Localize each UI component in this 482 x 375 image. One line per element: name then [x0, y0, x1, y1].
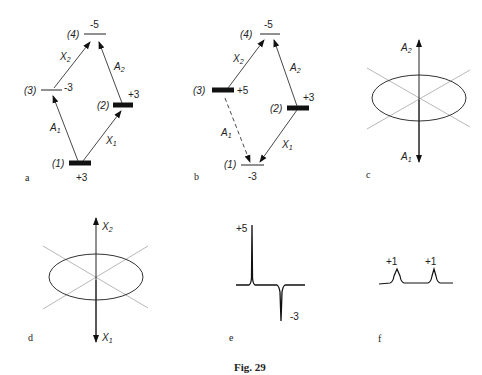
level-3-value: -3: [64, 82, 73, 93]
axis-label-top: A2: [400, 42, 412, 54]
level-3-id: (3): [193, 85, 205, 96]
peak-1-label: +1: [386, 256, 398, 267]
axis-label-bottom: X1: [101, 332, 113, 344]
panel-f: +1 +1 f: [378, 256, 453, 344]
peak-down-label: -3: [290, 311, 299, 322]
level-3-id: (3): [24, 85, 36, 96]
level-3-value: +5: [237, 85, 249, 96]
axis-label-top: X2: [101, 221, 113, 233]
peak-up-label: +5: [236, 223, 248, 234]
level-4-id: (4): [240, 29, 252, 40]
label-X2: X2: [59, 51, 71, 63]
level-2-value: +3: [128, 89, 140, 100]
axis-label-bottom: A1: [400, 151, 412, 163]
spectrum-trace: [379, 269, 453, 284]
level-2-value: +3: [303, 92, 315, 103]
label-A1: A1: [49, 122, 61, 134]
arrow-A2: [274, 40, 297, 106]
level-2-id: (2): [270, 103, 282, 114]
level-1-id: (1): [52, 158, 64, 169]
panel-b: (4) -5 (3) +5 (2) +3 (1) -3 A1 X1 X2 A2 …: [193, 19, 315, 182]
level-1-id: (1): [224, 159, 236, 170]
arrow-X2: [228, 40, 264, 88]
panel-d: X2 X1 d: [28, 218, 148, 344]
arrow-X1: [260, 110, 297, 162]
label-A2: A2: [289, 62, 301, 74]
level-4-value: -5: [264, 19, 273, 30]
label-X1: X1: [105, 135, 117, 147]
label-X1: X1: [281, 139, 293, 151]
arrow-X1: [83, 111, 121, 161]
panel-c: A2 A1 c: [366, 40, 470, 180]
arrow-A2: [99, 42, 122, 103]
panel-a: (4) -5 (3) -3 (2) +3 (1) +3 A1 X1 X2 A2 …: [24, 19, 140, 183]
label-A2: A2: [113, 61, 125, 73]
level-4-value: -5: [90, 19, 99, 30]
peak-2-label: +1: [425, 256, 437, 267]
spectrum-trace: [236, 225, 305, 321]
panel-label-b: b: [194, 171, 199, 182]
panel-label-f: f: [378, 333, 382, 344]
label-X2: X2: [232, 53, 244, 65]
level-1-value: +3: [76, 172, 88, 183]
level-4-id: (4): [67, 29, 79, 40]
level-1-value: -3: [248, 171, 257, 182]
level-2-id: (2): [97, 100, 109, 111]
panel-label-e: e: [229, 332, 234, 343]
panel-e: +5 -3 e: [229, 223, 305, 343]
figure-caption: Fig. 29: [234, 361, 266, 373]
label-A1: A1: [220, 127, 232, 139]
panel-label-a: a: [25, 172, 30, 183]
panel-label-c: c: [366, 169, 371, 180]
figure-29: (4) -5 (3) -3 (2) +3 (1) +3 A1 X1 X2 A2 …: [0, 0, 482, 375]
arrow-A1-dashed: [225, 98, 250, 162]
panel-label-d: d: [28, 332, 33, 343]
